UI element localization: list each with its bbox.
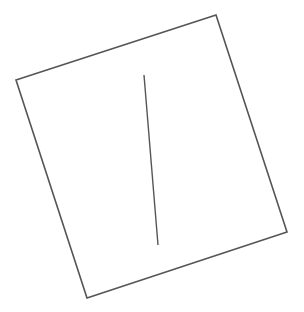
background [0,0,304,312]
diagram-canvas [0,0,304,312]
